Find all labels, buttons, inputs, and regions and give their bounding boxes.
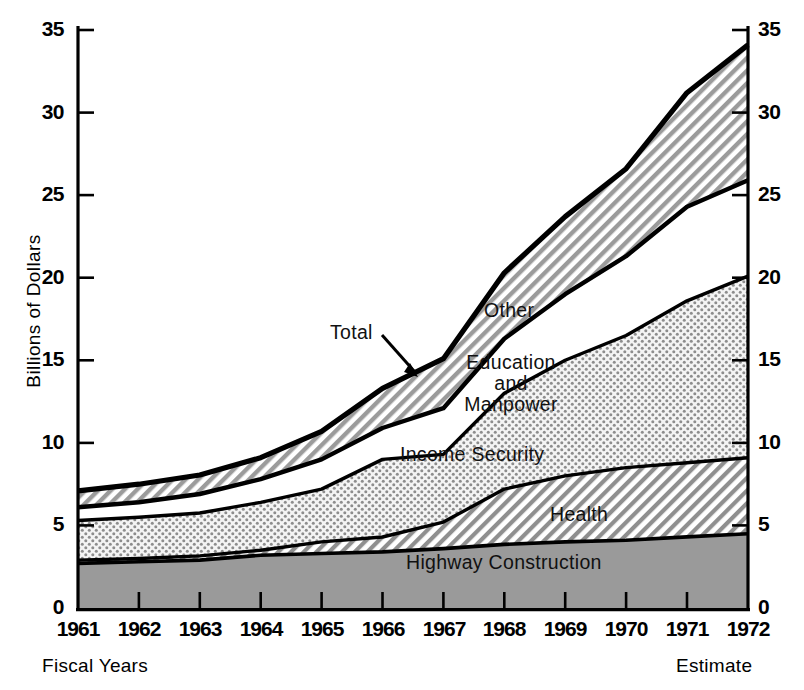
y-tick-right-0: 0 [758, 595, 798, 619]
y-tick-right-10: 10 [758, 430, 798, 454]
y-tick-right-30: 30 [758, 100, 798, 124]
y-tick-right-15: 15 [758, 347, 798, 371]
x-tick-1965: 1965 [291, 617, 353, 641]
series-label-other: Other [484, 300, 534, 321]
y-tick-left-25: 25 [24, 182, 64, 206]
stacked-area-chart: Billions of Dollars [0, 0, 804, 690]
x-tick-1966: 1966 [352, 617, 414, 641]
series-label-education-line1: Education [436, 352, 586, 373]
x-tick-1962: 1962 [108, 617, 170, 641]
y-tick-left-15: 15 [24, 347, 64, 371]
y-tick-right-5: 5 [758, 512, 798, 536]
y-tick-right-25: 25 [758, 182, 798, 206]
x-tick-1963: 1963 [169, 617, 231, 641]
y-tick-right-20: 20 [758, 265, 798, 289]
series-label-education-line2: and [436, 373, 586, 394]
x-tick-1967: 1967 [413, 617, 475, 641]
series-label-education-manpower: Education and Manpower [436, 352, 586, 415]
x-tick-1972: 1972 [717, 617, 779, 641]
chart-canvas [0, 0, 804, 690]
y-ticks-left [78, 30, 94, 525]
x-tick-1971: 1971 [656, 617, 718, 641]
series-label-education-line3: Manpower [436, 394, 586, 415]
x-tick-1969: 1969 [534, 617, 596, 641]
x-tick-1964: 1964 [230, 617, 292, 641]
x-tick-1968: 1968 [473, 617, 535, 641]
x-tick-1970: 1970 [595, 617, 657, 641]
x-tick-1961: 1961 [47, 617, 109, 641]
series-label-health: Health [550, 504, 608, 525]
y-tick-left-0: 0 [24, 595, 64, 619]
y-tick-right-35: 35 [758, 17, 798, 41]
total-callout-arrow [382, 335, 418, 377]
y-tick-left-20: 20 [24, 265, 64, 289]
y-tick-left-30: 30 [24, 100, 64, 124]
y-tick-left-10: 10 [24, 430, 64, 454]
series-label-income-security: Income Security [400, 444, 544, 465]
y-tick-left-35: 35 [24, 17, 64, 41]
y-tick-left-5: 5 [24, 512, 64, 536]
series-label-highway-construction: Highway Construction [406, 552, 602, 573]
series-label-total: Total [330, 322, 373, 343]
x-axis-title: Fiscal Years [42, 655, 148, 677]
estimate-note: Estimate [676, 655, 752, 677]
y-axis-title: Billions of Dollars [23, 181, 45, 441]
